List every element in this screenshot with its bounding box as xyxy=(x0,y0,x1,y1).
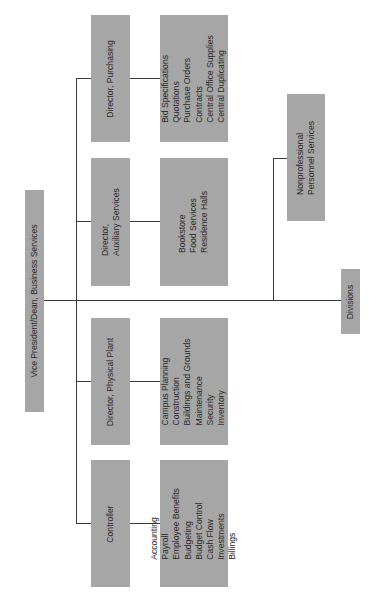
director-box-physical-plant: Director, Physical Plant xyxy=(91,318,130,445)
divisions-box: Divisions xyxy=(341,269,360,334)
function-item: Payroll xyxy=(160,488,171,560)
staff-box-nonprofessional-personnel: Nonprofessional Personnel Services xyxy=(287,94,325,221)
functions-box-physical-plant: Campus Planning Construction Buildings a… xyxy=(160,318,228,445)
staff-title-line: Personnel Services xyxy=(306,120,317,194)
function-item: Bookstore xyxy=(177,191,188,253)
function-item: Security xyxy=(205,338,216,425)
purchasing-branch-line xyxy=(76,78,91,79)
function-item: Residence Halls xyxy=(200,191,211,253)
function-item: Construction xyxy=(172,338,183,425)
director-title-line: Auxiliary Services xyxy=(111,188,122,256)
function-item: Budgeting xyxy=(183,488,194,560)
function-item: Investments xyxy=(216,488,227,560)
physical-plant-functions-line xyxy=(130,381,160,382)
function-item: Budget Control xyxy=(194,488,205,560)
function-item: Central Duplicating xyxy=(216,35,227,123)
function-item: Buildings and Grounds xyxy=(183,338,194,425)
function-item: Billings xyxy=(228,488,239,560)
functions-box-purchasing: Bid Specifications Quotations Purchase O… xyxy=(160,15,228,142)
function-item: Quotations xyxy=(172,35,183,123)
staff-title-line: Nonprofessional xyxy=(295,120,306,194)
root-to-trunk-line xyxy=(44,300,76,301)
purchasing-functions-line xyxy=(130,78,160,79)
staff-branch-line xyxy=(273,158,287,159)
main-horizontal-line xyxy=(76,300,341,301)
director-title-line: Controller xyxy=(105,505,116,542)
functions-box-auxiliary-services: Bookstore Food Services Residence Halls xyxy=(160,158,228,286)
function-item: Employee Benefits xyxy=(172,488,183,560)
function-item: Cash Flow xyxy=(205,488,216,560)
director-title-line: Director, xyxy=(99,188,110,256)
function-item: Contracts xyxy=(194,35,205,123)
function-item: Purchase Orders xyxy=(183,35,194,123)
function-item: Inventory xyxy=(216,338,227,425)
function-item: Accounting xyxy=(149,488,160,560)
function-item: Central Office Supplies xyxy=(205,35,216,123)
root-label: Vice President/Dean, Business Services xyxy=(29,224,40,377)
director-box-purchasing: Director, Purchasing xyxy=(91,15,130,142)
director-box-auxiliary-services: Director, Auxiliary Services xyxy=(91,158,130,286)
functions-box-controller: Accounting Payroll Employee Benefits Bud… xyxy=(160,460,228,587)
auxiliary-branch-line xyxy=(76,221,91,222)
controller-branch-line xyxy=(76,523,91,524)
director-title-line: Director, Purchasing xyxy=(105,40,116,117)
function-item: Campus Planning xyxy=(160,338,171,425)
director-box-controller: Controller xyxy=(91,460,130,587)
function-item: Bid Specifications xyxy=(160,35,171,123)
divisions-label: Divisions xyxy=(345,284,356,318)
function-item: Food Services xyxy=(188,191,199,253)
physical-plant-branch-line xyxy=(76,381,91,382)
root-box-vice-president: Vice President/Dean, Business Services xyxy=(25,190,44,412)
function-item: Maintenance xyxy=(194,338,205,425)
staff-vertical-line xyxy=(273,158,274,301)
director-title-line: Director, Physical Plant xyxy=(105,337,116,425)
director-trunk-line xyxy=(76,78,77,524)
auxiliary-functions-line xyxy=(130,221,160,222)
